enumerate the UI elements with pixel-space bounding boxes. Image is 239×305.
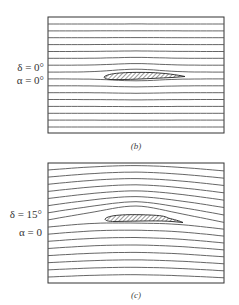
panel-b-caption: (b) bbox=[131, 141, 142, 151]
airfoil-streamline-diagram: δ = 0° α = 0° (b) δ = 15° α = 0 (c) bbox=[0, 0, 239, 305]
streamline bbox=[48, 64, 224, 66]
streamline bbox=[48, 191, 224, 200]
streamline bbox=[48, 166, 224, 171]
streamline bbox=[48, 230, 224, 236]
panel-c-alpha-label: α = 0 bbox=[19, 226, 42, 238]
streamline bbox=[48, 275, 224, 278]
panel-b: δ = 0° α = 0° (b) bbox=[17, 17, 224, 151]
panel-b-delta-label: δ = 0° bbox=[17, 61, 44, 73]
streamline bbox=[48, 172, 224, 178]
streamline bbox=[48, 51, 224, 52]
panel-b-alpha-label: α = 0° bbox=[17, 74, 44, 86]
panel-c-streamlines bbox=[48, 166, 224, 278]
panel-c-airfoil bbox=[105, 215, 183, 223]
streamline bbox=[48, 69, 224, 72]
panel-b-airfoil bbox=[104, 72, 185, 79]
panel-c-delta-label: δ = 15° bbox=[10, 208, 42, 220]
streamline bbox=[48, 185, 224, 193]
streamline bbox=[48, 245, 224, 250]
streamline bbox=[48, 238, 224, 244]
panel-c-caption: (c) bbox=[131, 290, 141, 300]
streamline bbox=[48, 260, 224, 264]
streamline bbox=[48, 267, 224, 271]
panel-c: δ = 15° α = 0 (c) bbox=[10, 163, 224, 300]
streamline bbox=[48, 252, 224, 256]
streamline bbox=[48, 57, 224, 58]
streamline bbox=[48, 93, 224, 94]
streamline bbox=[48, 86, 224, 87]
streamline bbox=[48, 223, 224, 229]
